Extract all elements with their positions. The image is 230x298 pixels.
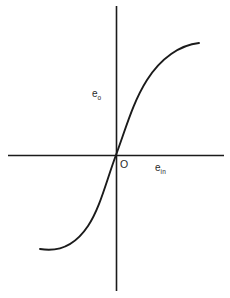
x-axis-label: ein — [155, 163, 166, 173]
x-axis-label-subscript: in — [161, 168, 166, 175]
y-axis-label-subscript: o — [98, 94, 102, 101]
y-axis-label: eo — [92, 89, 101, 99]
transfer-characteristic-figure: eo ein O — [0, 0, 230, 298]
origin-label: O — [120, 159, 128, 170]
transfer-curve — [40, 43, 199, 250]
x-axis-label-symbol: e — [155, 162, 161, 173]
plot-canvas — [0, 0, 230, 298]
y-axis-label-symbol: e — [92, 88, 98, 99]
